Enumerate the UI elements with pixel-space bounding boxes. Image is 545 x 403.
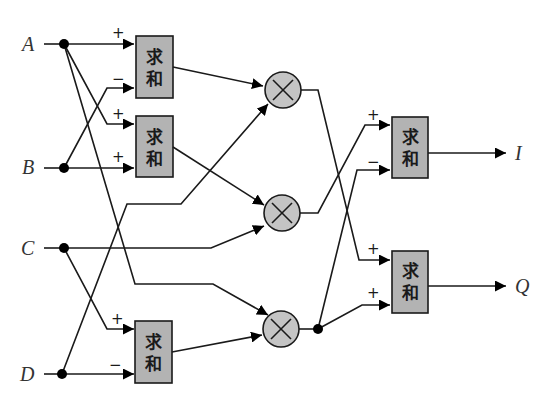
- svg-text:求: 求: [146, 47, 163, 67]
- sign-plus: +: [111, 310, 124, 328]
- summer-block-2: 求 和 + +: [112, 105, 173, 177]
- sign-minus: −: [109, 356, 122, 374]
- wires-c: [64, 226, 264, 329]
- input-label-b: B: [22, 156, 34, 178]
- svg-text:求: 求: [402, 261, 419, 281]
- output-wires: [428, 153, 506, 286]
- svg-text:和: 和: [145, 354, 162, 374]
- input-label-a: A: [20, 33, 35, 55]
- svg-text:和: 和: [146, 149, 163, 169]
- svg-text:和: 和: [402, 283, 419, 303]
- svg-text:求: 求: [146, 127, 163, 147]
- summer-block-1: 求 和 + −: [112, 24, 173, 98]
- input-lines: [44, 44, 64, 374]
- summer-block-3: 求 和 + −: [109, 310, 172, 383]
- svg-text:和: 和: [146, 69, 163, 89]
- sign-plus: +: [367, 106, 380, 124]
- junction-dot-mult3: [313, 324, 323, 334]
- wires-summer-to-multiplier: [172, 67, 264, 352]
- input-label-d: D: [19, 363, 35, 385]
- sign-plus: +: [367, 284, 380, 302]
- svg-text:求: 求: [402, 127, 419, 147]
- sign-minus: −: [367, 153, 380, 171]
- multiplier-3: [263, 311, 299, 347]
- junction-dot-a: [59, 39, 69, 49]
- sign-minus: −: [112, 70, 125, 88]
- sign-plus: +: [367, 240, 380, 258]
- sign-plus: +: [112, 105, 125, 123]
- svg-text:求: 求: [145, 332, 162, 352]
- block-diagram: A B C D 求 和 + − 求: [0, 0, 545, 403]
- summer-block-4: 求 和 + −: [367, 106, 428, 178]
- svg-text:和: 和: [402, 149, 419, 169]
- multiplier-2: [264, 195, 300, 231]
- summer-block-5: 求 和 + +: [367, 240, 428, 313]
- sign-plus: +: [112, 24, 125, 42]
- output-label-q: Q: [515, 275, 530, 297]
- sign-plus: +: [112, 148, 125, 166]
- output-label-i: I: [514, 142, 523, 164]
- junction-dot-d: [57, 369, 67, 379]
- input-label-c: C: [21, 237, 35, 259]
- junction-dot-c: [59, 243, 69, 253]
- multiplier-1: [265, 72, 301, 108]
- junction-dot-b: [59, 163, 69, 173]
